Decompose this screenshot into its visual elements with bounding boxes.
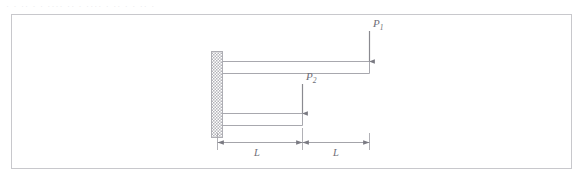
- figure-panel: P1 P2 L L: [11, 14, 572, 169]
- load-p2-label: P2: [305, 70, 317, 85]
- clipped-header-text: · · ·· · · ···· ·· · ···· · ·· · · ·· ·: [0, 0, 584, 12]
- load-p1-label: P1: [372, 17, 383, 32]
- dimension-line-group: [218, 128, 370, 150]
- cantilever-beam-diagram: P1 P2 L L: [12, 15, 571, 168]
- fixed-wall-support: [212, 52, 223, 138]
- dimension-right-label: L: [332, 147, 339, 158]
- lower-beam: [223, 114, 303, 126]
- upper-beam: [223, 62, 370, 74]
- dimension-left-label: L: [253, 147, 260, 158]
